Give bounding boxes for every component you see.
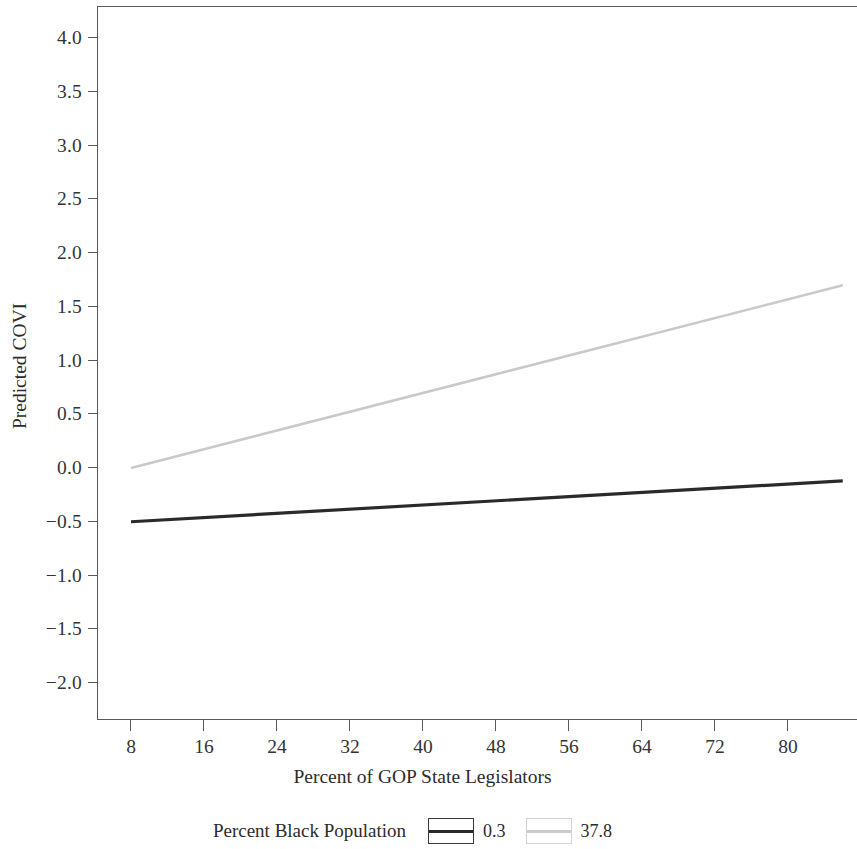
legend-entry-label: 0.3 <box>483 821 506 841</box>
legend-entry: 37.8 <box>526 818 613 844</box>
y-axis-tick-label: 2.5 <box>28 189 82 209</box>
y-axis-tick-label: −1.5 <box>28 619 82 639</box>
x-axis-tick-label: 16 <box>174 737 234 757</box>
y-axis-tick-label: −2.0 <box>28 673 82 693</box>
x-axis-tick <box>495 720 496 731</box>
x-axis-tick-label: 8 <box>101 737 161 757</box>
x-axis-tick-label: 40 <box>393 737 453 757</box>
y-axis-tick-label: 0.0 <box>28 458 82 478</box>
x-axis-tick <box>349 720 350 731</box>
x-axis-tick <box>714 720 715 731</box>
y-axis-tick-label: 3.5 <box>28 82 82 102</box>
legend-entries: 0.337.8 <box>428 818 632 844</box>
data-line-0.3 <box>131 481 843 522</box>
y-axis-tick-label: −0.5 <box>28 512 82 532</box>
x-axis-tick-label: 56 <box>539 737 599 757</box>
y-axis-tick-label: 1.0 <box>28 351 82 371</box>
chart-legend: Percent Black Population 0.337.8 <box>0 818 845 844</box>
data-line-37.8 <box>131 285 843 468</box>
x-axis-tick-label: 64 <box>612 737 672 757</box>
y-axis-tick-label: 1.5 <box>28 297 82 317</box>
x-axis-tick <box>641 720 642 731</box>
x-axis-tick-label: 32 <box>320 737 380 757</box>
y-axis-tick-label: 2.0 <box>28 243 82 263</box>
plot-area <box>97 6 845 720</box>
x-axis-tick-label: 80 <box>758 737 818 757</box>
x-axis-tick-label: 48 <box>466 737 526 757</box>
legend-title: Percent Black Population <box>213 821 406 841</box>
x-axis-tick <box>568 720 569 731</box>
legend-swatch-line <box>527 830 571 833</box>
legend-entry: 0.3 <box>428 818 506 844</box>
x-axis-tick-label: 72 <box>685 737 745 757</box>
x-axis-tick <box>422 720 423 731</box>
y-axis-tick-label: 3.0 <box>28 136 82 156</box>
legend-swatch-icon <box>526 818 572 844</box>
x-axis-title: Percent of GOP State Legislators <box>0 766 845 788</box>
x-axis-tick <box>130 720 131 731</box>
y-axis-tick-label: −1.0 <box>28 566 82 586</box>
x-axis-tick <box>787 720 788 731</box>
x-axis-tick <box>203 720 204 731</box>
y-axis-tick-label: 0.5 <box>28 404 82 424</box>
legend-swatch-line <box>429 830 473 833</box>
data-lines <box>97 6 845 720</box>
x-axis-tick <box>276 720 277 731</box>
y-axis-tick-label: 4.0 <box>28 28 82 48</box>
y-axis-title: Predicted COVI <box>9 256 31 476</box>
legend-entry-label: 37.8 <box>581 821 613 841</box>
x-axis-tick-label: 24 <box>247 737 307 757</box>
legend-swatch-icon <box>428 818 474 844</box>
